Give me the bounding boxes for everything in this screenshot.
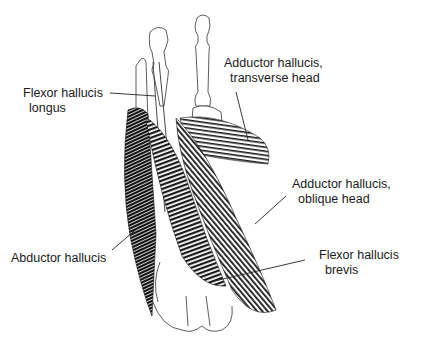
label-adductor-transverse-head: Adductor hallucis, transverse head [224, 56, 323, 86]
label-flexor-hallucis-brevis: Flexor hallucis brevis [319, 248, 399, 278]
label-abductor-hallucis: Abductor hallucis [11, 251, 106, 266]
leader-flexor-hallucis-longus [110, 93, 155, 96]
label-line: oblique head [292, 192, 391, 207]
label-line: transverse head [224, 71, 323, 86]
label-line: Flexor hallucis [319, 248, 399, 262]
anatomy-diagram: Flexor hallucis longus Adductor hallucis… [0, 0, 423, 353]
leader-adductor-oblique [255, 196, 286, 224]
label-line: brevis [319, 263, 399, 278]
label-adductor-oblique-head: Adductor hallucis, oblique head [292, 177, 391, 207]
label-flexor-hallucis-longus: Flexor hallucis longus [23, 86, 103, 116]
label-line: longus [23, 101, 103, 116]
label-line: Adductor hallucis, [224, 56, 323, 70]
label-line: Adductor hallucis, [292, 177, 391, 191]
second-toe-bones [191, 15, 223, 134]
label-line: Abductor hallucis [11, 251, 106, 265]
label-line: Flexor hallucis [23, 86, 103, 100]
